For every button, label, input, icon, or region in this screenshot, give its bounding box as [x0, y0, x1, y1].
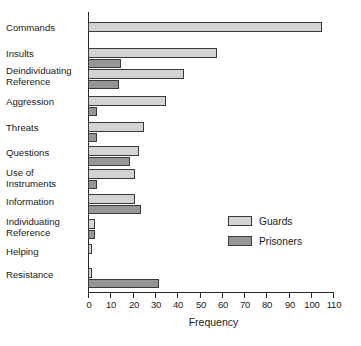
category-label-resistance: Resistance: [6, 270, 86, 281]
x-tick-70: [244, 292, 245, 298]
legend-swatch-prisoners-icon: [228, 236, 252, 246]
x-tick-label-30: 30: [151, 299, 161, 310]
bar-individuating-reference-prisoners: [88, 230, 95, 240]
x-tick-label-10: 10: [106, 299, 116, 310]
bar-deindividuating-reference-prisoners: [88, 80, 119, 90]
x-tick-30: [155, 292, 156, 298]
x-tick-50: [200, 292, 201, 298]
legend: Guards Prisoners: [228, 213, 302, 253]
x-tick-0: [88, 292, 89, 298]
x-tick-label-100: 100: [304, 299, 319, 310]
bar-questions-prisoners: [88, 157, 130, 167]
x-axis-line: [88, 292, 334, 293]
bar-insults-prisoners: [88, 59, 121, 69]
category-label-questions: Questions: [6, 148, 86, 159]
bar-threats-guards: [88, 122, 144, 132]
legend-item-guards: Guards: [228, 213, 302, 229]
bar-aggression-prisoners: [88, 107, 97, 117]
bar-aggression-guards: [88, 96, 166, 106]
x-tick-label-40: 40: [173, 299, 183, 310]
bar-information-guards: [88, 194, 135, 204]
legend-label-guards: Guards: [259, 216, 292, 227]
x-tick-label-20: 20: [129, 299, 139, 310]
bar-questions-guards: [88, 146, 139, 156]
bar-individuating-reference-guards: [88, 219, 95, 229]
x-axis-title-text: Frequency: [189, 316, 239, 328]
bar-deindividuating-reference-guards: [88, 69, 184, 79]
x-tick-60: [222, 292, 223, 298]
bar-use-of-instruments-guards: [88, 169, 135, 179]
bar-resistance-guards: [88, 268, 92, 278]
x-tick-100: [311, 292, 312, 298]
x-tick-label-110: 110: [327, 299, 342, 310]
category-label-commands: Commands: [6, 23, 86, 34]
category-label-information: Information: [6, 197, 86, 208]
category-label-threats: Threats: [6, 123, 86, 134]
x-tick-80: [266, 292, 267, 298]
x-tick-110: [333, 292, 334, 298]
legend-item-prisoners: Prisoners: [228, 233, 302, 249]
x-axis-title: Frequency: [0, 316, 361, 328]
x-tick-label-80: 80: [262, 299, 272, 310]
x-tick-label-60: 60: [218, 299, 228, 310]
legend-swatch-guards-icon: [228, 216, 252, 226]
bar-helping-guards: [88, 244, 92, 254]
bar-chart: Commands Insults Deindividuating Referen…: [0, 0, 361, 346]
bar-information-prisoners: [88, 205, 141, 215]
x-tick-label-0: 0: [86, 299, 91, 310]
x-tick-label-50: 50: [196, 299, 206, 310]
x-tick-label-70: 70: [240, 299, 250, 310]
x-tick-label-90: 90: [285, 299, 295, 310]
x-tick-20: [133, 292, 134, 298]
category-label-aggression: Aggression: [6, 97, 86, 108]
category-label-insults: Insults: [6, 49, 86, 60]
category-label-deindividuating-reference: Deindividuating Reference: [6, 66, 86, 87]
category-label-individuating-reference: Individuating Reference: [6, 217, 86, 238]
category-label-helping: Helping: [6, 247, 86, 258]
x-tick-90: [289, 292, 290, 298]
legend-label-prisoners: Prisoners: [259, 236, 302, 247]
x-tick-40: [177, 292, 178, 298]
x-tick-10: [110, 292, 111, 298]
bar-commands-guards: [88, 22, 322, 32]
category-label-use-of-instruments: Use of Instruments: [6, 168, 86, 189]
bar-use-of-instruments-prisoners: [88, 180, 97, 190]
bar-resistance-prisoners: [88, 279, 159, 289]
bar-threats-prisoners: [88, 133, 97, 143]
bar-insults-guards: [88, 48, 217, 58]
